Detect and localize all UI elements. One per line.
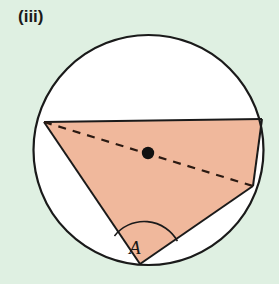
circle-triangle-diagram: A [0,0,279,284]
centre-dot [142,147,154,159]
angle-label: A [127,237,141,258]
figure-container: (iii) A [0,0,279,284]
